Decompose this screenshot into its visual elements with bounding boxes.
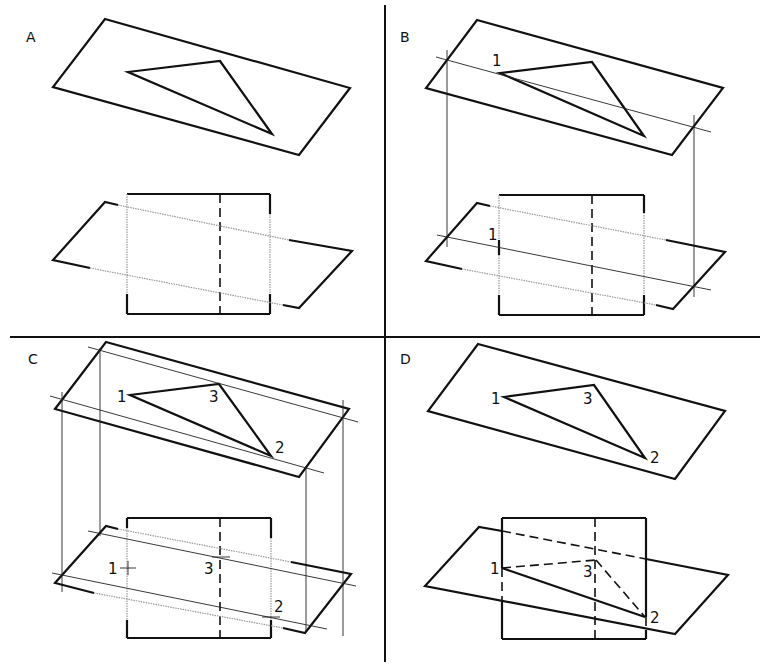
triangle-top-view [504,385,645,458]
lower-plane-hidden-edge [502,531,646,559]
point-label-3: 3 [209,388,219,406]
point-label-2-lower: 2 [650,609,660,627]
point-label-3-lower: 3 [204,560,214,578]
cutting-line-lower [437,235,711,290]
lower-plane-top-faint [118,205,289,240]
cutting-line [436,57,711,132]
triangle-top-view [130,384,271,456]
lower-view [53,194,352,314]
lower-plane-top-faint [118,529,291,562]
panel-label-c: C [28,351,38,367]
lower-plane-right [656,240,725,309]
figure-canvas: A B 1 [0,0,765,670]
point-label-1: 1 [492,52,502,70]
cutting-line-3-lower [88,531,356,586]
point-label-1: 1 [117,388,127,406]
panel-c: C 1 3 2 [28,342,358,638]
panel-b: B 1 1 [400,20,725,315]
lower-plane-right [283,240,352,308]
point-label-3: 3 [583,390,593,408]
lower-view: 1 3 2 [425,518,728,639]
lower-plane-left [426,203,490,269]
lower-plane-bottom-faint [94,593,283,628]
upper-plane [428,344,725,479]
cutting-line-3 [88,347,358,422]
lower-plane-bottom-faint [90,268,283,305]
point-label-2: 2 [650,449,660,467]
upper-plane [53,19,350,155]
panel-a: A [26,19,352,314]
point-label-1: 1 [491,390,501,408]
panel-d: D 1 3 2 1 3 2 [400,344,728,639]
point-label-1-lower: 1 [490,560,500,578]
lower-view: 1 3 2 [52,518,356,638]
point-label-2-lower: 2 [274,598,284,616]
lower-plane [425,527,728,634]
point-label-1-lower: 1 [108,560,118,578]
lower-plane-bottom-faint [462,269,656,305]
lower-view: 1 [426,195,725,315]
point-label-3-lower: 3 [583,563,593,581]
upper-plane [426,20,723,155]
lower-plane-left [53,202,118,268]
cutting-line-1-lower [52,573,327,629]
panel-label-b: B [400,29,410,45]
lower-plane-top-faint [490,206,666,240]
triangle-top-view [128,61,272,134]
point-label-2: 2 [275,439,285,457]
point-label-1-lower: 1 [488,226,498,244]
triangle-top-view [500,62,644,136]
triangle-edge-1-3-hidden [502,560,596,568]
cutting-line-1 [50,396,324,473]
panel-label-d: D [400,351,411,367]
panel-label-a: A [26,29,36,45]
